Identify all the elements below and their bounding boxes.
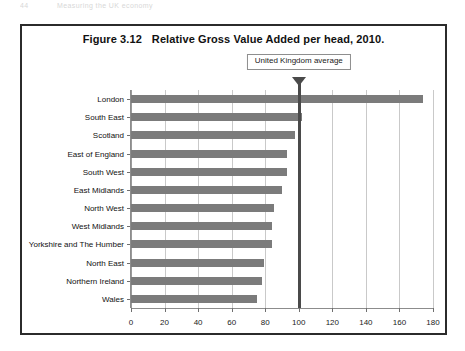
x-tick-label: 100 (292, 318, 305, 327)
bar-category-label: North West (84, 204, 124, 213)
x-axis-line (131, 308, 433, 309)
x-tick-label: 0 (129, 318, 133, 327)
bar (131, 277, 262, 285)
x-tick-label: 120 (326, 318, 339, 327)
bar-category-label: South West (83, 167, 124, 176)
x-tick-label: 40 (194, 318, 203, 327)
bar-row: Yorkshire and The Humber (131, 240, 433, 248)
page-header: 44 Measuring the UK economy (20, 2, 320, 12)
x-tick-label: 180 (426, 318, 439, 327)
gridline (399, 90, 400, 308)
x-tick-mark (198, 308, 199, 312)
figure-title-text: Relative Gross Value Added per head, 201… (152, 33, 384, 45)
x-tick-label: 80 (261, 318, 270, 327)
bar-row: West Midlands (131, 222, 433, 230)
plot-area: LondonSouth EastScotlandEast of EnglandS… (131, 90, 433, 308)
bar (131, 222, 272, 230)
uk-average-reference-line (298, 80, 301, 308)
x-tick-mark (366, 308, 367, 312)
bar-row: North West (131, 204, 433, 212)
x-tick-mark (165, 308, 166, 312)
gridline (198, 90, 199, 308)
y-axis-line (130, 90, 131, 308)
uk-average-callout: United Kingdom average (247, 54, 351, 70)
bar-row: East Midlands (131, 186, 433, 194)
figure-frame: Figure 3.12Relative Gross Value Added pe… (20, 24, 447, 335)
uk-average-callout-label: United Kingdom average (255, 56, 343, 65)
bar-row: East of England (131, 150, 433, 158)
bar-category-label: London (97, 95, 124, 104)
bar-category-label: Wales (102, 294, 124, 303)
x-tick-mark (299, 308, 300, 312)
bar-category-label: North East (86, 258, 124, 267)
gridline (265, 90, 266, 308)
uk-average-pointer-icon (292, 77, 306, 86)
gridline (165, 90, 166, 308)
bar-row: Wales (131, 295, 433, 303)
figure-number: Figure 3.12 (83, 33, 142, 45)
bar (131, 150, 287, 158)
x-tick-label: 160 (393, 318, 406, 327)
x-tick-label: 140 (359, 318, 372, 327)
gridline (332, 90, 333, 308)
x-tick-label: 60 (227, 318, 236, 327)
gridline (433, 90, 434, 308)
gridline (131, 90, 132, 308)
running-head: Measuring the UK economy (57, 2, 153, 9)
gridline (232, 90, 233, 308)
bar (131, 113, 302, 121)
bar-row: South West (131, 168, 433, 176)
bar (131, 168, 287, 176)
bar-category-label: East Midlands (74, 185, 124, 194)
bar-category-label: West Midlands (72, 222, 124, 231)
page-number: 44 (20, 2, 29, 9)
x-tick-mark (332, 308, 333, 312)
bar (131, 204, 274, 212)
bar (131, 240, 272, 248)
x-tick-mark (265, 308, 266, 312)
gridline (366, 90, 367, 308)
bar-category-label: Yorkshire and The Humber (29, 240, 124, 249)
bar-category-label: Scotland (93, 131, 124, 140)
bar (131, 95, 423, 103)
x-tick-mark (131, 308, 132, 312)
bar (131, 186, 282, 194)
bar-row: London (131, 95, 433, 103)
bar-row: South East (131, 113, 433, 121)
bar-row: Northern Ireland (131, 277, 433, 285)
x-tick-mark (399, 308, 400, 312)
bar-row: North East (131, 259, 433, 267)
x-tick-mark (433, 308, 434, 312)
x-tick-mark (232, 308, 233, 312)
figure-title: Figure 3.12Relative Gross Value Added pe… (22, 33, 445, 45)
bar-category-label: East of England (68, 149, 124, 158)
bar-row: Scotland (131, 131, 433, 139)
bar-category-label: Northern Ireland (66, 276, 124, 285)
bar (131, 131, 295, 139)
bar (131, 259, 264, 267)
x-tick-label: 20 (160, 318, 169, 327)
bar (131, 295, 257, 303)
bar-category-label: South East (85, 113, 124, 122)
